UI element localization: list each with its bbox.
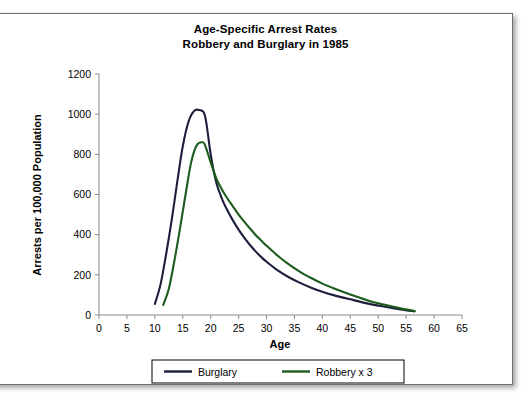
- x-tick-label: 15: [177, 322, 189, 334]
- x-tick-label: 60: [428, 322, 440, 334]
- x-tick-label: 65: [456, 322, 468, 334]
- x-tick-label: 40: [317, 322, 329, 334]
- y-tick-label: 0: [85, 309, 91, 321]
- x-tick-label: 35: [289, 322, 301, 334]
- chart-legend: BurglaryRobbery x 3: [152, 360, 404, 383]
- legend-label-1: Robbery x 3: [316, 366, 373, 378]
- y-axis-label: Arrests per 100,000 Population: [31, 114, 43, 276]
- y-tick-group: 020040060080010001200: [68, 68, 99, 321]
- x-tick-label: 45: [344, 322, 356, 334]
- y-tick-label: 400: [73, 228, 91, 240]
- y-tick-label: 1000: [68, 108, 92, 120]
- plot-area: 020040060080010001200 051015202530354045…: [0, 0, 531, 406]
- series-line-robbery-x-3: [163, 142, 414, 311]
- x-tick-label: 30: [261, 322, 273, 334]
- y-tick-label: 600: [73, 188, 91, 200]
- x-tick-label: 5: [124, 322, 130, 334]
- series-line-burglary: [155, 110, 415, 312]
- chart-figure: Age-Specific Arrest Rates Robbery and Bu…: [0, 0, 531, 406]
- legend-label-0: Burglary: [198, 366, 238, 378]
- x-tick-label: 10: [149, 322, 161, 334]
- y-tick-label: 200: [73, 269, 91, 281]
- y-axis: 020040060080010001200: [68, 68, 99, 321]
- x-tick-label: 50: [372, 322, 384, 334]
- x-tick-label: 0: [96, 322, 102, 334]
- x-tick-label: 55: [400, 322, 412, 334]
- x-axis: 05101520253035404550556065: [96, 315, 468, 334]
- x-axis-label: Age: [270, 338, 291, 350]
- x-tick-label: 25: [233, 322, 245, 334]
- y-tick-label: 800: [73, 148, 91, 160]
- x-tick-group: 05101520253035404550556065: [96, 315, 468, 334]
- y-tick-label: 1200: [68, 68, 92, 80]
- x-tick-label: 20: [205, 322, 217, 334]
- screenshot-root: Age-Specific Arrest Rates Robbery and Bu…: [0, 0, 531, 406]
- series-group: [155, 110, 415, 312]
